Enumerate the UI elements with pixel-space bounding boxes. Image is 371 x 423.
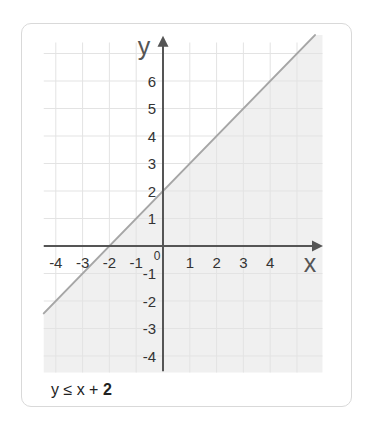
x-tick-label: 4 bbox=[266, 254, 274, 271]
y-tick-label: -4 bbox=[143, 348, 156, 365]
y-tick-label: 4 bbox=[148, 128, 156, 145]
x-tick-label: 3 bbox=[239, 254, 247, 271]
y-tick-label: 1 bbox=[148, 210, 156, 227]
y-axis-arrow-icon bbox=[158, 36, 169, 47]
origin-label: 0 bbox=[154, 249, 161, 263]
inequality-caption: y ≤ x + 2 bbox=[51, 380, 112, 400]
x-tick-label: -2 bbox=[103, 254, 116, 271]
x-tick-label: 1 bbox=[186, 254, 194, 271]
y-tick-label: 2 bbox=[148, 183, 156, 200]
x-tick-label: 2 bbox=[212, 254, 220, 271]
y-axis-label: y bbox=[138, 32, 151, 60]
caption-prefix: y ≤ x + bbox=[51, 381, 103, 398]
y-tick-label: -1 bbox=[143, 265, 156, 282]
y-tick-label: -2 bbox=[143, 293, 156, 310]
x-axis-label: x bbox=[304, 249, 317, 277]
y-tick-label: 5 bbox=[148, 100, 156, 117]
y-tick-label: 6 bbox=[148, 73, 156, 90]
x-tick-label: -3 bbox=[76, 254, 89, 271]
x-tick-label: -1 bbox=[130, 254, 143, 271]
shaded-region bbox=[44, 35, 323, 372]
y-tick-label: 3 bbox=[148, 155, 156, 172]
y-tick-label: -3 bbox=[143, 320, 156, 337]
shaded-area bbox=[44, 35, 323, 372]
caption-emphasis: 2 bbox=[103, 381, 112, 398]
inequality-graph: -4-3-2-11234-4-3-2-11234560yx bbox=[0, 0, 371, 423]
x-tick-label: -4 bbox=[49, 254, 62, 271]
